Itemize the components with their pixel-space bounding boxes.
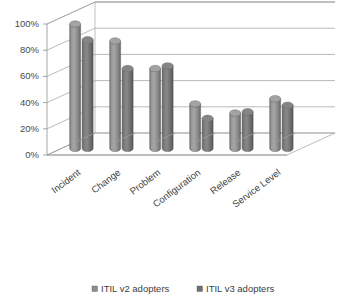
bar-top-cap [202,115,213,121]
y-tick-label: 0% [25,149,39,160]
chart-container: 0%20%40%60%80%100% IncidentChangeProblem… [0,0,353,307]
y-tick-label: 100% [15,18,40,29]
bar-4-0 [230,110,241,152]
bar-2-0 [150,65,161,151]
bar-top-cap [162,63,173,69]
bar-3-1 [202,115,213,152]
legend-swatch-icon [197,286,203,292]
bar-top-cap [190,101,201,107]
bar-1-0 [110,38,121,152]
chart-legend: ITIL v2 adoptersITIL v3 adopters [92,283,275,294]
bar-top-cap [242,109,253,115]
y-tick-label: 60% [20,70,40,81]
bar-top-cap [110,38,121,44]
bar-body [190,104,201,152]
bar-body [242,112,253,152]
bar-3-0 [190,101,201,152]
bar-body [162,66,173,152]
bar-body [70,24,81,152]
bar-4-1 [242,109,253,152]
legend-item-1[interactable]: ITIL v3 adopters [197,283,275,294]
y-tick-label: 20% [20,123,40,134]
x-axis-label-1: Change [89,167,122,196]
bar-body [122,68,133,151]
bar-0-0 [70,21,81,152]
bar-body [230,113,241,152]
bar-body [282,105,293,151]
legend-label-1: ITIL v3 adopters [206,283,275,294]
bar-body [150,68,161,151]
y-tick-label: 80% [20,44,40,55]
bar-5-0 [270,95,281,151]
bar-top-cap [230,110,241,116]
y-axis: 0%20%40%60%80%100% [15,18,47,160]
bar-top-cap [282,102,293,108]
x-axis-label-2: Problem [127,167,162,197]
bar-body [270,99,281,152]
bar-top-cap [82,36,93,42]
legend-label-0: ITIL v2 adopters [101,283,170,294]
legend-item-0[interactable]: ITIL v2 adopters [92,283,170,294]
bar-top-cap [270,95,281,101]
bar-chart: 0%20%40%60%80%100% IncidentChangeProblem… [0,0,353,307]
bar-top-cap [70,21,81,27]
bar-top-cap [122,65,133,71]
bar-body [110,41,121,152]
x-axis-label-4: Release [208,167,242,197]
y-tick-label: 40% [20,97,40,108]
x-axis-label-0: Incident [49,166,82,195]
bar-5-1 [282,102,293,152]
bar-top-cap [150,65,161,71]
bar-1-1 [122,65,133,151]
bar-series-group [70,21,294,152]
legend-swatch-icon [92,286,98,292]
